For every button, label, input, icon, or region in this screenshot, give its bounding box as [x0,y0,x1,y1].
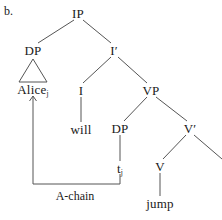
tree-node-label: DP [111,121,128,136]
branch-vbar-to-right [194,135,222,159]
a-chain-label: A-chain [56,190,95,202]
tree-node-label: VP [142,83,159,98]
tree-node-label: V [155,159,165,174]
tree-node-label: IP [72,6,84,21]
tree-node-dp-subj: DP [24,44,41,57]
tree-node-label: Alice [17,82,46,97]
dp-triangle [19,59,47,82]
branch-ip-to-ibar [83,20,111,43]
tree-node-i: I [79,84,84,97]
branch-vbar-to-v [163,135,186,159]
tree-node-subscript: j [121,168,123,177]
tree-node-label: DP [24,43,41,58]
branch-vp-to-vbar [156,97,187,121]
a-chain-arrow [33,96,120,184]
tree-node-trace: tj [117,162,123,175]
tree-node-will: will [70,123,91,136]
tree-node-label: I′ [110,43,118,58]
tree-node-jump: jump [146,197,174,210]
tree-node-ip: IP [72,7,84,20]
branch-vp-to-dp [124,97,147,121]
branch-ibar-to-i [83,57,111,83]
tree-node-label: will [70,122,91,137]
tree-branch-lines [0,0,222,220]
tree-node-label: V′ [184,121,197,136]
tree-node-v: V [155,160,165,173]
syntax-tree-figure: b. IPDPI′AlicejIVPwillDPV′tjVjump A-chai… [0,0,222,220]
tree-node-label: jump [146,196,174,211]
tree-node-dp-trace: DP [111,122,128,135]
tree-node-alice: Alicej [17,83,48,96]
tree-node-vp: VP [142,84,159,97]
branch-ip-to-dp [38,20,74,43]
tree-node-label: I [79,83,84,98]
tree-node-ibar: I′ [110,44,118,57]
tree-node-vbar: V′ [184,122,197,135]
branch-ibar-to-vp [118,57,147,83]
